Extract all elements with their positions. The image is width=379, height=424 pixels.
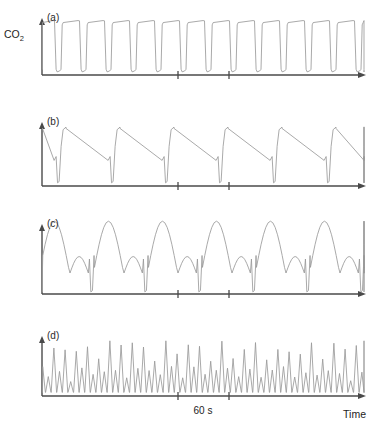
panel-d: (d) <box>39 330 366 400</box>
waveform-trace-b <box>43 127 365 183</box>
x-axis-arrowhead-a <box>358 72 366 78</box>
waveform-trace-c <box>43 221 365 292</box>
y-axis-title: CO2 <box>4 28 24 43</box>
y-axis-arrowhead-c <box>39 224 45 231</box>
panel-label-c: (c) <box>47 218 59 229</box>
y-axis-title-group: CO2 <box>4 28 24 43</box>
x-axis-arrowhead-b <box>358 183 366 189</box>
panel-b: (b) <box>39 116 366 190</box>
panels-group: (a)(b)(c)(d) <box>39 12 366 400</box>
panel-label-a: (a) <box>47 12 59 23</box>
x-axis-title-group: Time <box>343 408 366 420</box>
x-axis-arrowhead-c <box>358 291 366 297</box>
waveform-trace-a <box>43 21 365 72</box>
co2-waveform-figure: CO2 (a)(b)(c)(d) 60 s Time <box>0 0 379 424</box>
x-axis-arrowhead-d <box>358 393 366 399</box>
panel-label-d: (d) <box>47 330 59 341</box>
scale-bar-label: 60 s <box>194 405 213 416</box>
scale-bar-group: 60 s <box>194 405 213 416</box>
x-axis-title: Time <box>343 408 366 420</box>
y-axis-arrowhead-b <box>39 122 45 129</box>
panel-a: (a) <box>39 12 366 79</box>
y-axis-arrowhead-a <box>39 18 45 25</box>
panel-label-b: (b) <box>47 116 59 127</box>
panel-c: (c) <box>39 218 366 298</box>
y-axis-arrowhead-d <box>39 336 45 343</box>
waveform-trace-d <box>43 341 365 393</box>
